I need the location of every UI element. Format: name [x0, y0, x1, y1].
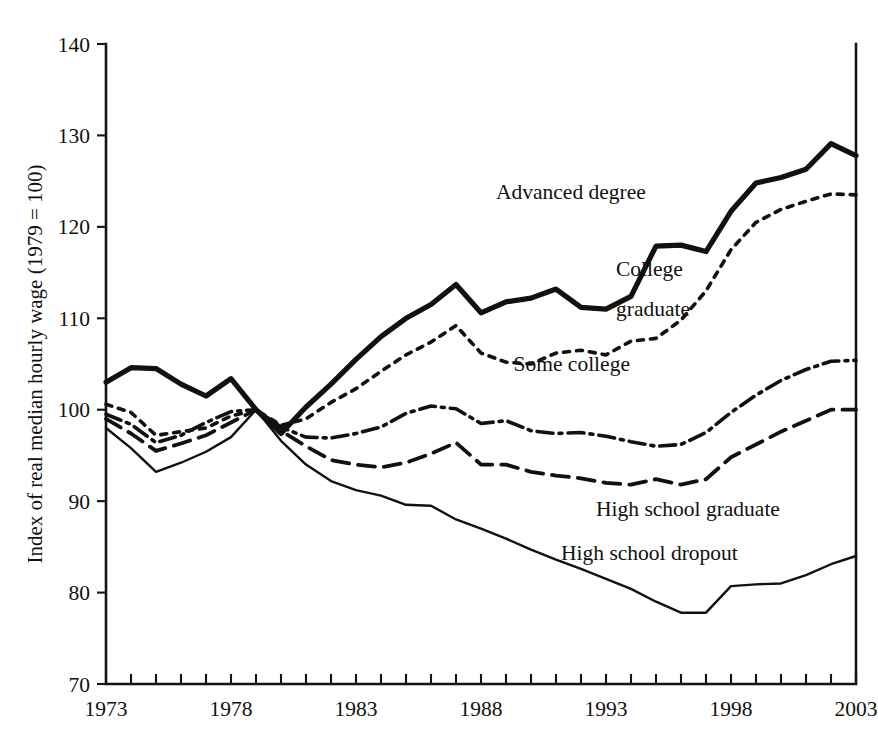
- x-tick-label: 1993: [585, 697, 628, 721]
- x-tick-label: 1988: [460, 697, 503, 721]
- x-axis-ticks: 1973197819831988199319982003: [85, 674, 878, 721]
- chart-container: 708090100110120130140 197319781983198819…: [0, 0, 878, 750]
- y-tick-label: 100: [58, 398, 90, 422]
- y-tick-label: 120: [58, 215, 90, 239]
- y-tick-label: 110: [59, 307, 90, 331]
- series-label-1: College: [616, 257, 683, 281]
- y-axis-ticks: 708090100110120130140: [58, 33, 106, 697]
- series-line-3: [106, 410, 856, 485]
- x-tick-label: 1978: [210, 697, 253, 721]
- series-label-4: High school dropout: [561, 541, 738, 565]
- series-annotations: Advanced degreeCollegegraduateSome colle…: [496, 180, 780, 564]
- y-tick-label: 80: [69, 581, 91, 605]
- series-label-2: Some college: [514, 352, 630, 376]
- line-chart: 708090100110120130140 197319781983198819…: [0, 0, 878, 750]
- y-tick-label: 90: [69, 490, 91, 514]
- y-tick-label: 130: [58, 124, 90, 148]
- plot-frame: [106, 44, 856, 684]
- series-label-1-line2: graduate: [616, 297, 690, 321]
- series-line-2: [106, 360, 856, 446]
- y-axis-title-text: Index of real median hourly wage (1979 =…: [23, 164, 47, 563]
- series-lines: [106, 144, 856, 613]
- series-line-0: [106, 144, 856, 434]
- x-tick-label: 1998: [710, 697, 753, 721]
- y-axis-title: Index of real median hourly wage (1979 =…: [23, 164, 47, 563]
- x-tick-label: 1983: [335, 697, 378, 721]
- series-label-3: High school graduate: [596, 497, 780, 521]
- y-tick-label: 70: [69, 673, 91, 697]
- series-label-0: Advanced degree: [496, 180, 646, 204]
- y-tick-label: 140: [58, 33, 90, 57]
- x-tick-label: 1973: [85, 697, 128, 721]
- x-tick-label: 2003: [835, 697, 878, 721]
- axes: [106, 44, 856, 684]
